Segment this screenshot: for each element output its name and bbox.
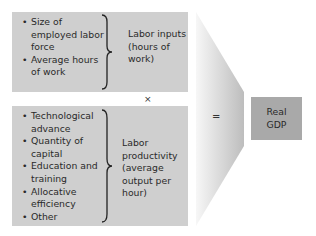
factor-item: Technological advance (22, 110, 112, 135)
factor-item: Size of employed labor force (22, 16, 108, 54)
labor-inputs-panel: Size of employed labor force Average hou… (12, 12, 188, 92)
multiply-operator: × (144, 93, 152, 105)
labor-productivity-label: Labor productivity (average output per h… (122, 137, 186, 200)
factor-item: Other (22, 211, 112, 224)
factor-item: Average hours of work (22, 54, 108, 79)
right-brace-icon (101, 109, 113, 223)
real-gdp-label: Real GDP (251, 105, 302, 131)
real-gdp-box: Real GDP (251, 97, 302, 140)
factor-item: Education and training (22, 160, 112, 185)
labor-inputs-label: Labor inputs (hours of work) (128, 28, 186, 66)
right-brace-icon (101, 14, 113, 90)
labor-productivity-panel: Technological advance Quantity of capita… (12, 106, 188, 226)
equals-operator: = (212, 111, 220, 123)
labor-productivity-factor-list: Technological advance Quantity of capita… (22, 110, 112, 223)
factor-item: Quantity of capital (22, 135, 112, 160)
labor-inputs-factor-list: Size of employed labor force Average hou… (22, 16, 108, 79)
factor-item: Allocative efficiency (22, 186, 112, 211)
